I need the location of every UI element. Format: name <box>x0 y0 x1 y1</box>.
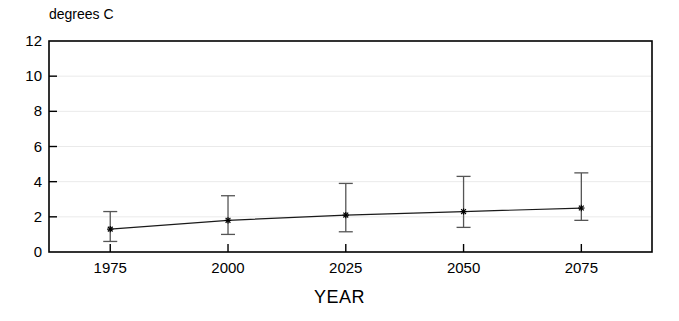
y-tick-label-2: 2 <box>0 208 42 225</box>
data-marker-2025 <box>343 212 349 218</box>
x-axis-title: YEAR <box>0 287 679 308</box>
y-tick-label-12: 12 <box>0 32 42 49</box>
data-marker-2050 <box>460 208 466 214</box>
x-tick-label-1975: 1975 <box>70 259 150 276</box>
error-bars-group <box>103 173 588 242</box>
y-axis-ticks <box>49 76 57 217</box>
x-tick-label-2000: 2000 <box>188 259 268 276</box>
data-marker-1975 <box>107 226 113 232</box>
data-marker-2075 <box>578 205 584 211</box>
chart-figure: degrees C 024681012 19752000202520502075… <box>0 0 679 321</box>
x-tick-label-2075: 2075 <box>541 259 621 276</box>
y-tick-label-8: 8 <box>0 102 42 119</box>
y-tick-label-0: 0 <box>0 243 42 260</box>
y-tick-label-10: 10 <box>0 67 42 84</box>
x-axis-ticks <box>110 244 581 252</box>
x-tick-label-2050: 2050 <box>424 259 504 276</box>
gridlines-group <box>50 76 651 217</box>
y-tick-label-4: 4 <box>0 173 42 190</box>
x-tick-label-2025: 2025 <box>306 259 386 276</box>
data-marker-2000 <box>225 217 231 223</box>
y-tick-label-6: 6 <box>0 138 42 155</box>
